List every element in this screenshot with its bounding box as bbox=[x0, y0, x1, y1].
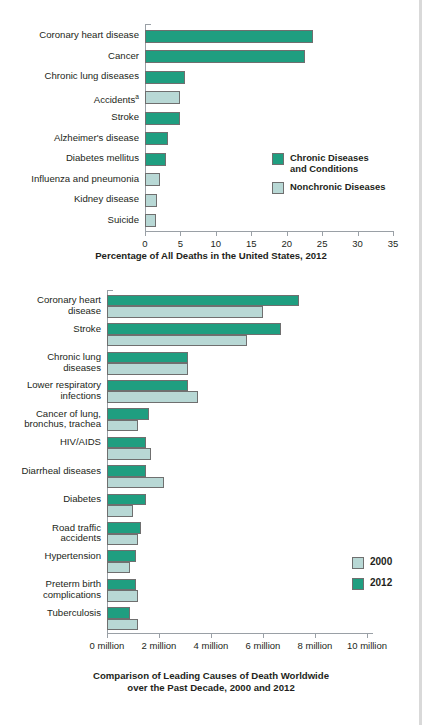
x-axis-title-bottom: Comparison of Leading Causes of Death Wo… bbox=[0, 670, 422, 694]
x-tick-label: 8 million bbox=[285, 640, 345, 651]
legend-bottom: 2000 2012 bbox=[352, 557, 392, 595]
x-tick-label: 10 bbox=[202, 238, 230, 249]
legend-item-chronic: Chronic Diseases and Conditions bbox=[272, 153, 385, 174]
legend-label-2012: 2012 bbox=[370, 578, 392, 589]
bar-bottom-2000 bbox=[107, 306, 263, 318]
category-label-bottom: Lower respiratory infections bbox=[0, 380, 101, 401]
bar-bottom-2012 bbox=[107, 522, 141, 534]
category-label-bottom: Tuberculosis bbox=[0, 608, 101, 619]
category-label-bottom: Cancer of lung, bronchus, trachea bbox=[0, 409, 101, 430]
bar-bottom-2000 bbox=[107, 619, 138, 631]
x-tick-label: 2 million bbox=[129, 640, 189, 651]
x-tick-mark bbox=[180, 232, 181, 236]
bar-top-nonchronic bbox=[145, 173, 160, 186]
category-label-top: Stroke bbox=[0, 112, 139, 123]
bar-bottom-2012 bbox=[107, 323, 281, 335]
footnote-marker: a bbox=[135, 93, 139, 100]
x-tick-mark bbox=[263, 634, 264, 638]
bar-bottom-2012 bbox=[107, 494, 146, 506]
bar-top-chronic bbox=[145, 30, 313, 43]
x-axis-title-top: Percentage of All Deaths in the United S… bbox=[0, 250, 422, 262]
bar-bottom-2012 bbox=[107, 465, 146, 477]
legend-label-2000: 2000 bbox=[370, 557, 392, 568]
bar-bottom-2000 bbox=[107, 534, 138, 546]
x-tick-label: 0 million bbox=[77, 640, 137, 651]
legend-swatch-nonchronic bbox=[272, 182, 284, 194]
category-label-top: Chronic lung diseases bbox=[0, 71, 139, 82]
bar-top-chronic bbox=[145, 132, 168, 145]
chart-worldwide-deaths: 0 million2 million4 million6 million8 mi… bbox=[0, 280, 422, 725]
bar-bottom-2000 bbox=[107, 590, 138, 602]
category-label-top: Coronary heart disease bbox=[0, 30, 139, 41]
category-label-bottom: Hypertension bbox=[0, 551, 101, 562]
category-label-bottom: Diabetes bbox=[0, 494, 101, 505]
x-tick-label: 5 bbox=[166, 238, 194, 249]
bar-top-chronic bbox=[145, 112, 180, 125]
bar-top-nonchronic bbox=[145, 214, 156, 227]
bar-bottom-2012 bbox=[107, 408, 149, 420]
x-tick-mark bbox=[251, 232, 252, 236]
figure-two-bar-charts: 05101520253035 Coronary heart diseaseCan… bbox=[0, 0, 422, 725]
category-label-top: Diabetes mellitus bbox=[0, 153, 139, 164]
category-label-bottom: HIV/AIDS bbox=[0, 437, 101, 448]
category-label-bottom: Diarrheal diseases bbox=[0, 466, 101, 477]
chart-us-deaths-2012: 05101520253035 Coronary heart diseaseCan… bbox=[0, 0, 422, 270]
legend-item-2000: 2000 bbox=[352, 557, 392, 569]
bar-top-nonchronic bbox=[145, 91, 180, 104]
x-tick-mark bbox=[315, 634, 316, 638]
category-label-bottom: Coronary heart disease bbox=[0, 295, 101, 316]
x-tick-label: 25 bbox=[308, 238, 336, 249]
category-label-top: Cancer bbox=[0, 51, 139, 62]
bar-bottom-2012 bbox=[107, 607, 130, 619]
bar-top-nonchronic bbox=[145, 194, 157, 207]
category-label-bottom: Road traffic accidents bbox=[0, 523, 101, 544]
bar-top-chronic bbox=[145, 153, 166, 166]
x-tick-label: 6 million bbox=[233, 640, 293, 651]
x-tick-mark bbox=[211, 634, 212, 638]
category-label-top: Accidentsa bbox=[0, 92, 139, 106]
bar-bottom-2000 bbox=[107, 335, 247, 347]
bar-bottom-2000 bbox=[107, 363, 188, 375]
x-tick-mark bbox=[358, 232, 359, 236]
legend-swatch-chronic bbox=[272, 153, 284, 165]
legend-item-nonchronic: Nonchronic Diseases bbox=[272, 182, 385, 194]
legend-swatch-2012 bbox=[352, 578, 364, 590]
x-tick-mark bbox=[367, 634, 368, 638]
x-tick-label: 35 bbox=[379, 238, 407, 249]
legend-swatch-2000 bbox=[352, 557, 364, 569]
x-tick-mark bbox=[107, 634, 108, 638]
bar-top-chronic bbox=[145, 50, 305, 63]
category-label-bottom: Stroke bbox=[0, 324, 101, 335]
x-tick-label: 20 bbox=[273, 238, 301, 249]
bar-bottom-2012 bbox=[107, 550, 136, 562]
x-tick-label: 4 million bbox=[181, 640, 241, 651]
x-tick-label: 10 million bbox=[337, 640, 397, 651]
bar-bottom-2012 bbox=[107, 579, 136, 591]
bar-bottom-2000 bbox=[107, 391, 198, 403]
x-tick-mark bbox=[287, 232, 288, 236]
category-label-top: Suicide bbox=[0, 215, 139, 226]
category-label-top: Alzheimer's disease bbox=[0, 133, 139, 144]
category-label-bottom: Chronic lung diseases bbox=[0, 352, 101, 373]
category-label-top: Kidney disease bbox=[0, 194, 139, 205]
bar-bottom-2012 bbox=[107, 437, 146, 449]
x-tick-mark bbox=[322, 232, 323, 236]
x-tick-label: 15 bbox=[237, 238, 265, 249]
legend-top: Chronic Diseases and Conditions Nonchron… bbox=[272, 153, 385, 199]
category-label-bottom: Preterm birth complications bbox=[0, 579, 101, 600]
x-tick-mark bbox=[393, 232, 394, 236]
x-tick-label: 0 bbox=[131, 238, 159, 249]
x-tick-mark bbox=[145, 232, 146, 236]
x-tick-mark bbox=[216, 232, 217, 236]
x-axis-line-bottom bbox=[107, 633, 373, 634]
bar-bottom-2000 bbox=[107, 505, 133, 517]
bar-bottom-2000 bbox=[107, 477, 164, 489]
bar-bottom-2000 bbox=[107, 448, 151, 460]
bar-bottom-2000 bbox=[107, 420, 138, 432]
bar-bottom-2000 bbox=[107, 562, 130, 574]
bar-bottom-2012 bbox=[107, 295, 299, 307]
legend-label-nonchronic: Nonchronic Diseases bbox=[290, 182, 385, 193]
x-tick-label: 30 bbox=[344, 238, 372, 249]
legend-label-chronic: Chronic Diseases and Conditions bbox=[290, 153, 369, 174]
category-label-top: Influenza and pneumonia bbox=[0, 174, 139, 185]
